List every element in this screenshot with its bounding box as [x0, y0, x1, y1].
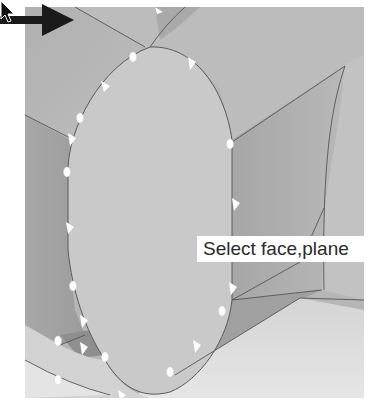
3d-model-viewport[interactable]: Select face,plane [0, 0, 374, 408]
tooltip: Select face,plane [197, 236, 364, 262]
model-render [0, 0, 374, 408]
mouse-pointer-icon [0, 0, 16, 24]
